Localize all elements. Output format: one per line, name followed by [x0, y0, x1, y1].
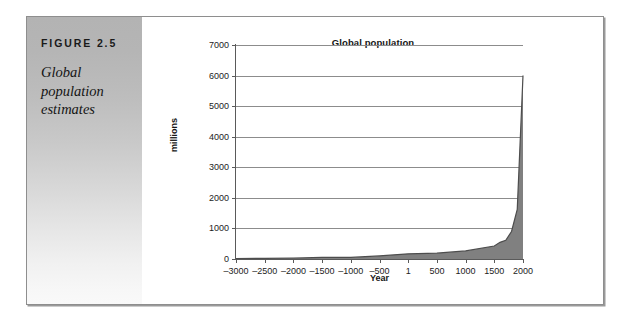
y-tick-label: 3000 — [209, 162, 229, 172]
x-tick-label: –2500 — [252, 266, 277, 276]
y-tick-label: 7000 — [209, 40, 229, 50]
x-tick-label: 1500 — [484, 266, 504, 276]
y-axis-line — [235, 44, 236, 260]
y-tick-label: 2000 — [209, 193, 229, 203]
figure-number-label: FIGURE 2.5 — [41, 37, 117, 49]
figure-root: FIGURE 2.5 Global population estimates G… — [0, 0, 631, 328]
y-tick-label: 0 — [224, 254, 229, 264]
x-tick-label: –1000 — [338, 266, 363, 276]
x-tick-label: 500 — [429, 266, 444, 276]
x-tick-label: –2000 — [281, 266, 306, 276]
x-tick-label: –500 — [369, 266, 389, 276]
y-tick-label: 5000 — [209, 101, 229, 111]
population-area-shape — [236, 76, 523, 259]
x-tick-label: 2000 — [513, 266, 533, 276]
x-axis-line — [235, 259, 524, 260]
plot-area: 01000200030004000500060007000 –3000–2500… — [236, 45, 523, 259]
population-area-series — [236, 45, 523, 259]
x-tick-label: –3000 — [223, 266, 248, 276]
figure-border-box: FIGURE 2.5 Global population estimates G… — [26, 16, 604, 305]
population-line-shape — [236, 76, 523, 259]
figure-caption-panel: FIGURE 2.5 Global population estimates — [27, 17, 142, 304]
y-tick-label: 1000 — [209, 223, 229, 233]
x-tick-label: –1500 — [310, 266, 335, 276]
y-axis-title: millions — [169, 118, 179, 152]
y-tick-label: 6000 — [209, 71, 229, 81]
figure-caption-text: Global population estimates — [41, 63, 136, 119]
chart-area: Global population millions Year 01000200… — [142, 17, 604, 304]
x-tick-label: 1000 — [456, 266, 476, 276]
x-tick-label: 1 — [406, 266, 411, 276]
y-tick-label: 4000 — [209, 132, 229, 142]
